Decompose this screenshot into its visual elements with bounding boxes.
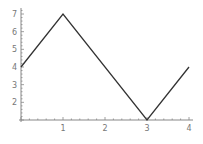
line-chart: 1234234567: [0, 0, 203, 144]
tick-labels: 1234234567: [12, 10, 192, 133]
y-tick-label: 5: [12, 45, 17, 54]
y-tick-label: 7: [12, 10, 17, 19]
x-tick-label: 3: [144, 124, 149, 133]
x-tick-label: 2: [102, 124, 107, 133]
y-tick-label: 6: [12, 28, 17, 37]
tick-marks: [21, 10, 189, 120]
x-tick-label: 4: [186, 124, 191, 133]
series-line: [21, 14, 189, 120]
y-tick-label: 3: [12, 81, 17, 90]
plot-area: 1234234567: [0, 0, 203, 144]
axes: [19, 8, 193, 122]
y-tick-label: 4: [12, 63, 17, 72]
y-tick-label: 2: [12, 98, 17, 107]
x-tick-label: 1: [60, 124, 65, 133]
data-series: [21, 14, 189, 120]
